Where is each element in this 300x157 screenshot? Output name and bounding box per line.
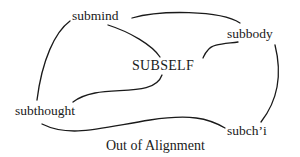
node-subself: SUBSELF	[132, 59, 194, 73]
node-submind: submind	[72, 9, 119, 23]
node-subchi: subch’i	[227, 124, 267, 138]
line-subbody-subself	[203, 42, 238, 58]
node-subbody: subbody	[227, 27, 273, 41]
line-submind-subthought	[37, 21, 70, 100]
line-subself-subthought	[73, 75, 162, 102]
line-subbody-subchi	[261, 45, 278, 122]
line-submind-subself	[108, 25, 160, 57]
line-subthought-subchi	[42, 117, 225, 131]
node-subthought: subthought	[15, 104, 75, 118]
line-submind-subbody	[132, 13, 240, 23]
diagram-caption: Out of Alignment	[106, 139, 205, 153]
